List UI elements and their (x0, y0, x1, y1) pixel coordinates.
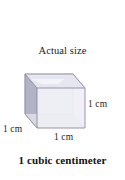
figure-caption: 1 cubic centimeter (0, 154, 125, 166)
cube-front-face (37, 88, 85, 128)
figure-title: Actual size (0, 45, 125, 56)
dimension-label-depth: 1 cm (3, 124, 22, 134)
dimension-label-height: 1 cm (88, 99, 107, 109)
dimension-label-width: 1 cm (54, 132, 73, 142)
figure-root: Actual size (0, 0, 125, 180)
